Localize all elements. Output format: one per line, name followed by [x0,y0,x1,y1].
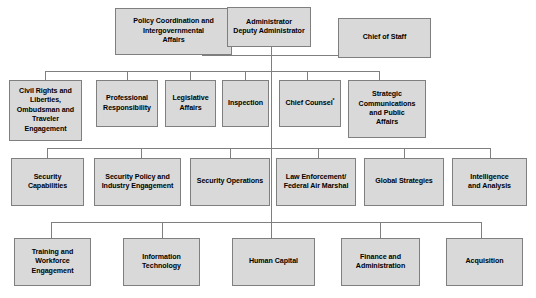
connector-level2-drop-legislative-affairs [190,71,191,80]
connector-level4-drop-training-workforce [51,222,52,238]
org-node-administrator-label: AdministratorDeputy Administrator [230,18,308,37]
org-node-professional-responsibility[interactable]: ProfessionalResponsibility [96,80,158,127]
connector-main-spine [271,55,272,238]
org-node-law-enforcement-label: Law Enforcement/Federal Air Marshal [279,173,353,192]
org-node-legislative-affairs-label: LegislativeAffairs [168,94,213,113]
org-node-chief-of-staff[interactable]: Chief of Staff [338,18,431,58]
connector-level2-drop-chief-counsel [307,71,308,80]
org-node-security-capabilities[interactable]: SecurityCapabilities [11,158,84,206]
org-node-civil-rights-label: Civil Rights andLiberties,Ombudsman andT… [12,87,79,134]
connector-level4-drop-finance-administration [380,222,381,238]
org-chart: Policy Coordination andIntergovernmental… [0,0,536,298]
org-node-training-workforce-label: Training andWorkforceEngagement [17,248,88,276]
org-node-information-technology-label: InformationTechnology [126,253,197,272]
org-node-intelligence-analysis-label: Intelligenceand Analysis [455,173,524,192]
connector-level2-drop-inspection [245,71,246,80]
org-node-security-policy[interactable]: Security Policy andIndustry Engagement [94,158,181,206]
org-node-security-capabilities-label: SecurityCapabilities [14,173,81,192]
connector-level2-drop-strategic-communications [379,71,380,80]
org-node-strategic-communications[interactable]: StrategicCommunicationsand PublicAffairs [348,80,426,138]
org-node-human-capital[interactable]: Human Capital [232,238,315,286]
org-node-policy-coordination[interactable]: Policy Coordination andIntergovernmental… [115,8,232,55]
org-node-acquisition-label: Acquisition [449,257,520,266]
connector-level3-drop-intelligence-analysis [490,148,491,158]
connector-level4-bus [51,222,481,223]
org-node-chief-counsel[interactable]: Chief Counsel* [279,80,341,127]
org-node-inspection[interactable]: Inspection [222,80,269,127]
org-node-human-capital-label: Human Capital [235,257,312,266]
org-node-acquisition[interactable]: Acquisition [446,238,523,286]
connector-level2-bus [45,71,379,72]
connector-level4-drop-information-technology [162,222,163,238]
connector-level2-drop-civil-rights [45,71,46,80]
connector-level4-drop-human-capital [271,222,272,238]
connector-level3-drop-law-enforcement [318,148,319,158]
org-node-intelligence-analysis[interactable]: Intelligenceand Analysis [452,158,527,206]
org-node-finance-administration[interactable]: Finance andAdministration [341,238,420,286]
org-node-global-strategies-label: Global Strategies [367,177,441,186]
org-node-chief-counsel-label: Chief Counsel* [282,99,338,108]
org-node-policy-coordination-label: Policy Coordination andIntergovernmental… [118,17,229,45]
org-node-legislative-affairs[interactable]: LegislativeAffairs [165,80,216,127]
org-node-administrator[interactable]: AdministratorDeputy Administrator [227,7,311,47]
org-node-inspection-label: Inspection [225,99,266,108]
connector-level3-drop-global-strategies [404,148,405,158]
connector-level3-drop-security-operations [230,148,231,158]
org-node-training-workforce[interactable]: Training andWorkforceEngagement [14,238,91,286]
connector-level3-drop-security-capabilities [47,148,48,158]
org-node-strategic-communications-label: StrategicCommunicationsand PublicAffairs [351,90,423,127]
org-node-security-operations[interactable]: Security Operations [190,158,270,206]
org-node-law-enforcement[interactable]: Law Enforcement/Federal Air Marshal [276,158,356,206]
connector-level3-drop-security-policy [141,148,142,158]
connector-level4-drop-acquisition [481,222,482,238]
org-node-global-strategies[interactable]: Global Strategies [364,158,444,206]
org-node-security-operations-label: Security Operations [193,177,267,186]
org-node-finance-administration-label: Finance andAdministration [344,253,417,272]
org-node-civil-rights[interactable]: Civil Rights andLiberties,Ombudsman andT… [9,80,82,141]
org-node-professional-responsibility-label: ProfessionalResponsibility [99,94,155,113]
org-node-security-policy-label: Security Policy andIndustry Engagement [97,173,178,192]
org-node-information-technology[interactable]: InformationTechnology [123,238,200,286]
connector-level3-bus [47,148,490,149]
connector-level2-drop-professional-responsibility [127,71,128,80]
org-node-chief-of-staff-label: Chief of Staff [341,33,428,42]
